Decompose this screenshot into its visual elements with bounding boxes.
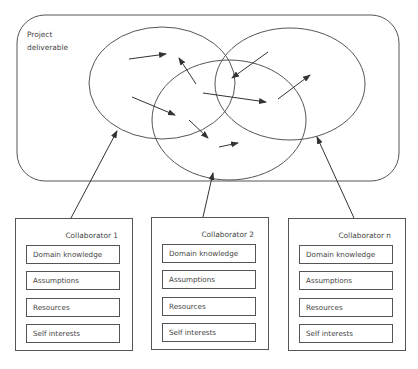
attribute-resources: Resources [26,298,120,317]
attribute-self-interests: Self interests [26,324,120,343]
attribute-domain-knowledge: Domain knowledge [26,245,120,264]
connector-arrow-collaborator-2 [203,173,213,217]
arrow-icon [203,93,266,102]
ellipse-collaborator-2 [152,60,306,180]
connector-arrow-collaborator-n [317,137,354,218]
collaborator-box-n: Collaborator n Domain knowledge Assumpti… [288,218,406,351]
collaborator-title: Collaborator n [338,231,391,240]
collaborator-title: Collaborator 1 [65,231,118,240]
arrow-icon [179,58,196,84]
arrow-icon [132,97,175,115]
deliverable-label-line1: Project [27,28,87,41]
deliverable-label-line2: deliverable [27,41,87,54]
arrow-icon [189,120,208,138]
attribute-self-interests: Self interests [162,323,256,342]
collaborator-title: Collaborator 2 [201,230,254,239]
arrow-icon [129,54,166,59]
collaborator-box-1: Collaborator 1 Domain knowledge Assumpti… [15,218,133,351]
attribute-assumptions: Assumptions [26,271,120,290]
attribute-assumptions: Assumptions [299,271,393,290]
connector-arrow-collaborator-1 [71,131,117,218]
ellipse-collaborator-1 [89,27,235,139]
project-deliverable-label: Project deliverable [27,28,87,54]
attribute-domain-knowledge: Domain knowledge [299,245,393,264]
attribute-assumptions: Assumptions [162,270,256,289]
arrow-icon [278,75,310,99]
attribute-self-interests: Self interests [299,324,393,343]
arrow-icon [219,143,238,147]
attribute-resources: Resources [162,297,256,316]
arrow-icon [232,52,268,78]
contribution-connectors [71,131,354,218]
attribute-resources: Resources [299,298,393,317]
attribute-domain-knowledge: Domain knowledge [162,244,256,263]
collaborator-box-2: Collaborator 2 Domain knowledge Assumpti… [151,217,269,350]
